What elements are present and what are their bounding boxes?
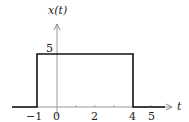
x-axis-label: t (177, 100, 182, 113)
y-axis-label: x(t) (48, 4, 67, 17)
signal-plot: x(t) t 5 −1 0 2 4 5 (0, 0, 189, 122)
y-tick-label-5: 5 (46, 42, 53, 55)
x-tick-label-5: 5 (148, 110, 155, 122)
x-tick-label-0: 0 (53, 110, 60, 122)
x-tick-label-neg1: −1 (26, 110, 42, 122)
x-tick-label-2: 2 (91, 110, 98, 122)
pulse-signal (12, 54, 165, 107)
x-tick-label-4: 4 (129, 110, 136, 122)
